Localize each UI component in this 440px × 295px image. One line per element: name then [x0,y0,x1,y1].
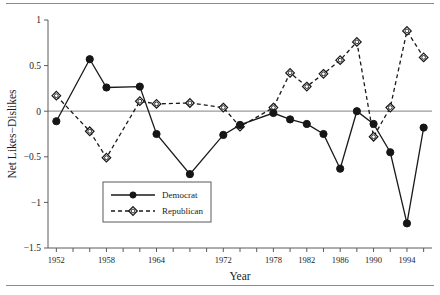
democrat-point-marker [420,124,427,131]
x-tick-label: 1972 [215,255,232,265]
chart-legend: Democrat Republican [103,182,211,222]
line-chart: 10.50−0.5−1−1.5 195219581964197219781982… [0,0,440,295]
democrat-point-marker [236,121,243,128]
republican-point-marker-inner [54,94,58,98]
y-axis-title: Net Likes−Dislikes [6,89,18,179]
republican-point-marker-inner [188,101,192,105]
democrat-point-marker [387,149,394,156]
democrat-point-marker [186,171,193,178]
legend-republican-label: Republican [162,206,203,216]
y-tick-label: 0 [36,107,41,117]
republican-point-marker-inner [372,135,376,139]
democrat-point-marker [53,118,60,125]
x-tick-label: 1978 [265,255,282,265]
x-axis-tick-labels: 195219581964197219781982198619901994 [48,255,416,265]
democrat-point-marker [353,108,360,115]
republican-point-marker-inner [271,106,275,110]
republican-series-line [56,31,423,158]
x-axis-ticks [56,248,423,252]
republican-point-marker-inner [355,40,359,44]
x-axis-title: Year [229,270,250,282]
legend-democrat-label: Democrat [162,190,198,200]
democrat-point-marker [337,165,344,172]
democrat-point-marker [103,84,110,91]
x-tick-label: 1986 [332,255,349,265]
bottom-horizontal-rule [6,285,434,286]
republican-point-marker-inner [138,99,142,103]
legend-democrat-marker [130,192,136,198]
top-horizontal-rule [6,3,434,4]
y-axis-ticks [44,20,48,248]
republican-point-marker-inner [288,71,292,75]
republican-point-marker-inner [322,72,326,76]
republican-point-marker-inner [88,129,92,133]
y-tick-label: −0.5 [24,152,41,162]
republican-point-marker-inner [155,102,159,106]
x-tick-label: 1990 [365,255,382,265]
republican-point-marker-inner [422,55,426,59]
x-tick-label: 1952 [48,255,65,265]
democrat-point-marker [320,130,327,137]
figure-container: 10.50−0.5−1−1.5 195219581964197219781982… [0,0,440,295]
republican-data-markers [52,27,428,162]
democrat-point-marker [403,220,410,227]
democrat-point-marker [303,120,310,127]
y-axis-tick-labels: 10.50−0.5−1−1.5 [24,15,41,253]
democrat-point-marker [270,109,277,116]
x-tick-label: 1982 [298,255,315,265]
democrat-point-marker [136,83,143,90]
republican-point-marker-inner [405,29,409,33]
democrat-point-marker [86,56,93,63]
democrat-point-marker [370,120,377,127]
y-tick-label: −1.5 [24,243,41,253]
republican-point-marker-inner [221,106,225,110]
republican-point-marker-inner [105,156,109,160]
y-tick-label: 1 [36,15,41,25]
republican-point-marker-inner [388,106,392,110]
x-tick-label: 1958 [98,255,115,265]
republican-point-marker-inner [338,58,342,62]
x-tick-label: 1994 [398,255,416,265]
y-tick-label: −1 [31,198,41,208]
legend-republican-diamond-inner [131,209,135,213]
democrat-point-marker [153,130,160,137]
democrat-point-marker [286,116,293,123]
x-tick-label: 1964 [148,255,166,265]
y-tick-label: 0.5 [29,61,41,71]
republican-point-marker-inner [305,85,309,89]
democrat-point-marker [220,131,227,138]
